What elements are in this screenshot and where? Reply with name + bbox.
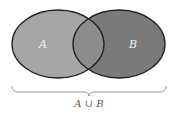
union-brace: [12, 86, 166, 96]
union-label: A ∪ B: [73, 98, 103, 109]
venn-diagram: A B A ∪ B: [0, 0, 177, 113]
set-a-label: A: [38, 38, 47, 51]
venn-svg: A B A ∪ B: [0, 0, 177, 113]
set-b-label: B: [128, 38, 137, 51]
